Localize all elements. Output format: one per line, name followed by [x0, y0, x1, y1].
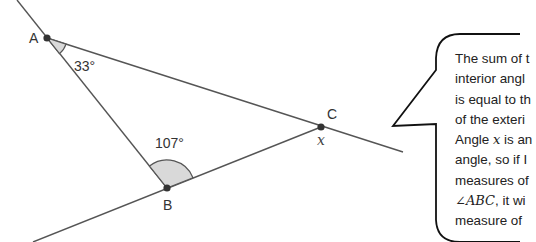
bubble-line: interior angl	[455, 69, 536, 89]
angle-a-label: 33°	[74, 58, 95, 74]
angle-b-arc	[150, 160, 194, 188]
bubble-line: angle, so if I	[455, 150, 536, 170]
point-a	[43, 34, 50, 41]
line-ac	[47, 38, 403, 152]
angle-b-label: 107°	[155, 135, 184, 151]
bubble-line: ∠ABC, it wi	[455, 191, 536, 211]
bubble-line: The sum of t	[455, 49, 536, 69]
line-ab	[17, 0, 167, 188]
bubble-angle-abc: ∠ABC	[455, 193, 495, 208]
speech-bubble-text: The sum of t interior angl is equal to t…	[455, 49, 536, 232]
bubble-line-suffix: is an	[500, 132, 532, 147]
bubble-line: of the exteri	[455, 110, 536, 130]
bubble-line-suffix: , it wi	[495, 193, 526, 208]
bubble-line: measures of	[455, 171, 536, 191]
point-c	[317, 123, 324, 130]
bubble-line-prefix: Angle	[455, 132, 493, 147]
bubble-line: Angle x is an	[455, 130, 536, 150]
angle-c-label: x	[317, 132, 325, 148]
label-a: A	[29, 30, 39, 46]
label-c: C	[327, 106, 337, 122]
label-b: B	[163, 197, 172, 213]
bubble-line: measure of	[455, 211, 536, 231]
bubble-line: is equal to th	[455, 90, 536, 110]
point-b	[163, 184, 170, 191]
